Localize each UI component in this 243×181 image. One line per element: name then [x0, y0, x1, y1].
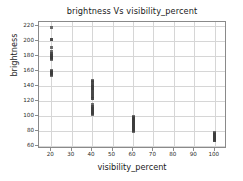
gridline-vertical [72, 22, 73, 147]
data-point [91, 113, 94, 116]
gridline-horizontal [39, 101, 225, 102]
data-point [50, 58, 53, 61]
x-tick-label: 40 [88, 151, 95, 157]
y-tick-label: 120 [0, 97, 34, 103]
y-tick-mark [35, 55, 38, 56]
x-tick-label: 60 [128, 151, 135, 157]
gridline-horizontal [39, 56, 225, 57]
data-point [50, 74, 53, 77]
x-axis-label: visibility_percent [38, 162, 226, 172]
x-tick-label: 100 [208, 151, 219, 157]
gridline-horizontal [39, 41, 225, 42]
y-tick-mark [35, 85, 38, 86]
x-tick-mark [173, 148, 174, 151]
y-tick-mark [35, 70, 38, 71]
x-tick-mark [50, 148, 51, 151]
y-tick-mark [35, 145, 38, 146]
gridline-horizontal [39, 146, 225, 147]
gridline-horizontal [39, 71, 225, 72]
gridline-vertical [174, 22, 175, 147]
plot-area [38, 21, 226, 148]
y-tick-mark [35, 25, 38, 26]
gridline-vertical [153, 22, 154, 147]
gridline-vertical [194, 22, 195, 147]
x-tick-label: 50 [108, 151, 115, 157]
data-point [50, 38, 53, 41]
gridline-vertical [215, 22, 216, 147]
x-tick-mark [71, 148, 72, 151]
data-point [91, 97, 94, 100]
y-tick-label: 100 [0, 112, 34, 118]
x-tick-mark [112, 148, 113, 151]
y-tick-mark [35, 130, 38, 131]
data-point [213, 139, 216, 142]
x-tick-label: 90 [190, 151, 197, 157]
x-tick-mark [214, 148, 215, 151]
x-tick-label: 80 [169, 151, 176, 157]
gridline-vertical [113, 22, 114, 147]
gridline-horizontal [39, 86, 225, 87]
y-tick-label: 80 [0, 127, 34, 133]
y-tick-mark [35, 100, 38, 101]
x-tick-mark [152, 148, 153, 151]
data-point [132, 130, 135, 133]
y-tick-mark [35, 115, 38, 116]
y-tick-label: 60 [0, 142, 34, 148]
x-tick-mark [193, 148, 194, 151]
x-tick-label: 20 [47, 151, 54, 157]
scatter-plot-figure: brightness Vs visibility_percent 6080100… [0, 0, 243, 181]
y-axis-label: brightness [9, 15, 19, 95]
x-tick-label: 70 [149, 151, 156, 157]
data-point [50, 26, 53, 29]
chart-title: brightness Vs visibility_percent [38, 6, 226, 16]
x-tick-mark [91, 148, 92, 151]
x-tick-label: 30 [67, 151, 74, 157]
y-tick-mark [35, 40, 38, 41]
data-point [50, 46, 53, 49]
gridline-horizontal [39, 26, 225, 27]
x-tick-mark [132, 148, 133, 151]
